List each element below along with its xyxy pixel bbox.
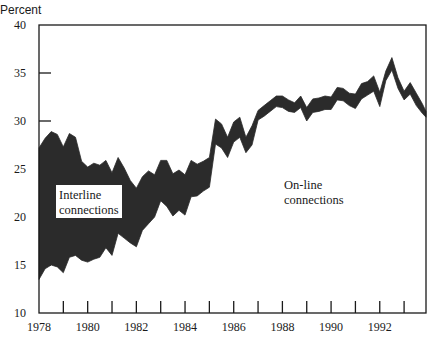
y-tick-label: 25 [14, 162, 26, 176]
interline-label: Interline connections [56, 185, 122, 218]
interline-label-line1: Interline [59, 188, 102, 202]
x-tick-label: 1990 [319, 320, 343, 334]
x-tick-label: 1978 [27, 320, 51, 334]
online-label: On-line connections [284, 178, 344, 207]
interline-connections-band [39, 58, 426, 280]
online-label-line2: connections [284, 193, 344, 207]
y-tick-label: 20 [14, 210, 26, 224]
y-tick-label: 40 [14, 18, 26, 32]
x-tick-label: 1980 [76, 320, 100, 334]
y-tick-label: 30 [14, 114, 26, 128]
interline-label-line2: connections [59, 203, 119, 217]
x-tick-label: 1992 [368, 320, 392, 334]
y-tick-label: 35 [14, 66, 26, 80]
y-tick-label: 15 [14, 258, 26, 272]
online-label-line1: On-line [284, 178, 323, 192]
x-tick-label: 1986 [222, 320, 246, 334]
x-axis-ticks: 19781980198219841986198819901992 [27, 301, 404, 334]
y-tick-label: 10 [14, 306, 26, 320]
x-tick-label: 1988 [270, 320, 294, 334]
x-tick-label: 1984 [173, 320, 197, 334]
chart-canvas: Percent 10152025303540 19781980198219841… [0, 0, 434, 339]
y-axis-title: Percent [0, 3, 42, 17]
x-tick-label: 1982 [124, 320, 148, 334]
